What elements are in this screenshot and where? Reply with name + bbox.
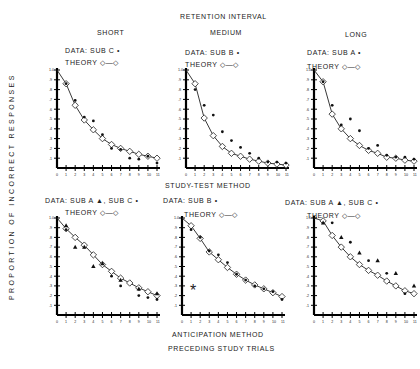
svg-text:3: 3 <box>340 320 342 324</box>
svg-text:6: 6 <box>111 173 113 177</box>
panel-2: .1.2.3.4.5.6.7.8.91.001234567891011 <box>178 68 289 177</box>
svg-text:.2: .2 <box>49 147 52 151</box>
svg-text:.4: .4 <box>49 275 52 279</box>
svg-text:.2: .2 <box>174 294 177 298</box>
svg-text:11: 11 <box>281 320 285 324</box>
svg-text:5: 5 <box>101 320 103 324</box>
svg-text:.7: .7 <box>49 98 52 102</box>
panel-6: .1.2.3.4.5.6.7.8.91.001234567891011 <box>306 216 417 324</box>
svg-text:3: 3 <box>83 173 85 177</box>
panel-4: .1.2.3.4.5.6.7.8.91.001234567891011 <box>49 216 160 324</box>
svg-text:.9: .9 <box>306 78 309 82</box>
svg-text:4: 4 <box>349 173 351 177</box>
svg-text:1.0: 1.0 <box>306 68 311 72</box>
svg-text:5: 5 <box>358 173 360 177</box>
svg-text:.2: .2 <box>306 147 309 151</box>
svg-text:.3: .3 <box>306 137 309 141</box>
svg-text:.6: .6 <box>49 108 52 112</box>
svg-text:7: 7 <box>120 320 122 324</box>
svg-text:.1: .1 <box>174 304 177 308</box>
svg-text:.3: .3 <box>178 137 181 141</box>
svg-text:.1: .1 <box>306 157 309 161</box>
svg-text:10: 10 <box>272 320 276 324</box>
svg-text:10: 10 <box>404 173 408 177</box>
panel-1: .1.2.3.4.5.6.7.8.91.001234567891011 <box>49 68 160 177</box>
svg-text:.2: .2 <box>178 147 181 151</box>
svg-text:.6: .6 <box>178 108 181 112</box>
svg-text:.1: .1 <box>178 157 181 161</box>
svg-text:9: 9 <box>263 320 265 324</box>
svg-text:9: 9 <box>138 320 140 324</box>
svg-text:.9: .9 <box>49 78 52 82</box>
svg-text:.3: .3 <box>306 284 309 288</box>
svg-text:1: 1 <box>194 173 196 177</box>
svg-text:5: 5 <box>230 173 232 177</box>
plots-canvas: .1.2.3.4.5.6.7.8.91.001234567891011.1.2.… <box>0 0 420 369</box>
svg-text:.5: .5 <box>174 265 177 269</box>
svg-text:11: 11 <box>156 320 160 324</box>
svg-text:.1: .1 <box>306 304 309 308</box>
svg-text:8: 8 <box>254 320 256 324</box>
svg-text:.5: .5 <box>49 117 52 121</box>
svg-text:.1: .1 <box>49 304 52 308</box>
svg-text:.4: .4 <box>306 275 309 279</box>
svg-text:7: 7 <box>377 320 379 324</box>
svg-text:2: 2 <box>203 173 205 177</box>
svg-text:.7: .7 <box>306 245 309 249</box>
svg-text:.5: .5 <box>178 117 181 121</box>
svg-text:1.0: 1.0 <box>49 68 54 72</box>
svg-text:.9: .9 <box>49 226 52 230</box>
svg-text:11: 11 <box>156 173 160 177</box>
svg-text:6: 6 <box>368 320 370 324</box>
svg-text:6: 6 <box>368 173 370 177</box>
svg-text:7: 7 <box>120 173 122 177</box>
svg-text:2: 2 <box>199 320 201 324</box>
svg-text:9: 9 <box>267 173 269 177</box>
svg-text:.3: .3 <box>49 284 52 288</box>
svg-text:.9: .9 <box>174 226 177 230</box>
svg-text:2: 2 <box>331 173 333 177</box>
svg-text:.3: .3 <box>49 137 52 141</box>
svg-text:.4: .4 <box>306 127 309 131</box>
panel-5: .1.2.3.4.5.6.7.8.91.001234567891011 <box>174 216 285 324</box>
svg-text:10: 10 <box>276 173 280 177</box>
svg-text:8: 8 <box>258 173 260 177</box>
svg-text:7: 7 <box>245 320 247 324</box>
svg-text:.5: .5 <box>306 265 309 269</box>
svg-text:1: 1 <box>190 320 192 324</box>
svg-text:0: 0 <box>181 320 183 324</box>
svg-text:.8: .8 <box>306 236 309 240</box>
svg-text:.8: .8 <box>178 88 181 92</box>
svg-text:.9: .9 <box>306 226 309 230</box>
svg-text:3: 3 <box>340 173 342 177</box>
svg-text:1.0: 1.0 <box>49 216 54 220</box>
svg-text:3: 3 <box>83 320 85 324</box>
svg-text:.5: .5 <box>306 117 309 121</box>
svg-text:.7: .7 <box>49 245 52 249</box>
svg-text:.6: .6 <box>174 255 177 259</box>
svg-text:9: 9 <box>395 320 397 324</box>
svg-text:.5: .5 <box>49 265 52 269</box>
svg-text:3: 3 <box>212 173 214 177</box>
svg-text:5: 5 <box>358 320 360 324</box>
svg-text:8: 8 <box>129 320 131 324</box>
svg-text:.4: .4 <box>174 275 177 279</box>
svg-text:8: 8 <box>386 173 388 177</box>
svg-text:11: 11 <box>285 173 289 177</box>
svg-text:2: 2 <box>74 173 76 177</box>
svg-text:7: 7 <box>377 173 379 177</box>
svg-text:0: 0 <box>313 173 315 177</box>
svg-text:.8: .8 <box>306 88 309 92</box>
svg-text:5: 5 <box>101 173 103 177</box>
svg-text:.6: .6 <box>306 255 309 259</box>
svg-text:4: 4 <box>92 320 94 324</box>
svg-text:.8: .8 <box>49 236 52 240</box>
svg-text:.7: .7 <box>306 98 309 102</box>
svg-text:6: 6 <box>111 320 113 324</box>
svg-text:1: 1 <box>65 320 67 324</box>
svg-text:10: 10 <box>147 320 151 324</box>
svg-text:4: 4 <box>92 173 94 177</box>
svg-text:.3: .3 <box>174 284 177 288</box>
svg-text:.7: .7 <box>174 245 177 249</box>
svg-text:.4: .4 <box>178 127 181 131</box>
